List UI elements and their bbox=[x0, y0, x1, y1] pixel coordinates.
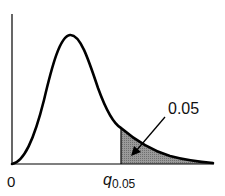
x-tick-origin: 0 bbox=[7, 174, 15, 189]
quantile-symbol: q bbox=[103, 171, 112, 188]
quantile-subscript: 0.05 bbox=[112, 177, 135, 191]
annotation-arrow bbox=[136, 117, 165, 151]
density-chart bbox=[0, 0, 225, 196]
tail-area-label: 0.05 bbox=[168, 101, 199, 117]
shaded-tail-region bbox=[121, 128, 213, 164]
x-tick-quantile: q0.05 bbox=[103, 172, 135, 190]
